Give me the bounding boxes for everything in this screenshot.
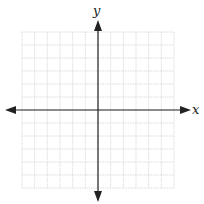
x-axis-label: x: [192, 102, 200, 117]
y-axis-top-arrow-icon: [94, 20, 102, 31]
x-axis-right-arrow-icon: [180, 106, 191, 114]
y-axis-label: y: [92, 3, 101, 18]
y-axis-bottom-arrow-icon: [94, 191, 102, 202]
x-axis-left-arrow-icon: [5, 106, 16, 114]
coordinate-plane: x y: [0, 0, 204, 204]
